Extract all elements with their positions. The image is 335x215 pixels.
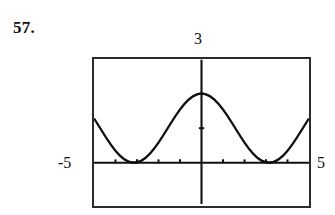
curve-pixel — [308, 118, 309, 120]
y-max-label: 3 — [194, 31, 202, 47]
calculator-viewport — [92, 57, 311, 208]
plot-canvas — [94, 59, 309, 206]
x-min-label: -5 — [58, 155, 71, 171]
problem-number: 57. — [13, 19, 35, 36]
axes-group — [94, 60, 309, 204]
exercise-figure: 57. 3 -5 5 — [0, 0, 335, 215]
x-max-label: 5 — [317, 155, 325, 171]
